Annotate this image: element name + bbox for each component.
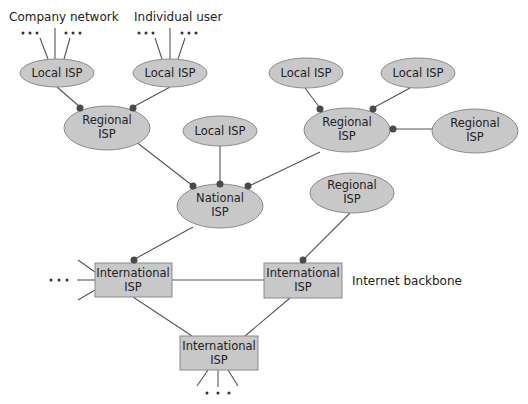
node-local-isp-5: Local ISP [183, 116, 257, 146]
node-national-isp: National ISP [177, 184, 263, 228]
node-regional-isp-1-line2: ISP [98, 127, 116, 141]
node-international-isp-3: International ISP [180, 336, 258, 370]
node-local-isp-3-label: Local ISP [280, 66, 331, 80]
edge-company-network-right [64, 38, 70, 59]
node-local-isp-5-label: Local ISP [194, 124, 245, 138]
joint-regional1-left [77, 105, 84, 112]
edge-regional2-national [249, 152, 320, 186]
node-local-isp-2: Local ISP [133, 59, 207, 87]
node-regional-isp-3: Regional ISP [432, 109, 518, 153]
node-international-isp-1-line2: ISP [124, 280, 142, 294]
edge-individual-user-right [178, 38, 185, 59]
ellipsis-company-right [65, 32, 82, 35]
edge-local1-regional1 [57, 87, 80, 107]
ellipsis-company-left [22, 32, 39, 35]
node-regional-isp-3-line1: Regional [450, 116, 500, 130]
ellipsis-international3-bottom [206, 392, 231, 395]
ellipsis-user-left [138, 32, 155, 35]
node-local-isp-2-label: Local ISP [144, 66, 195, 80]
node-regional-isp-2-line2: ISP [338, 129, 356, 143]
node-regional-isp-1: Regional ISP [64, 106, 150, 150]
joint-international2-top [300, 257, 307, 264]
node-international-isp-2-line1: International [266, 266, 339, 280]
edge-international1-fan-bottom [78, 290, 95, 300]
joint-national-right [245, 183, 252, 190]
joint-regional2-east [390, 126, 397, 133]
edge-local4-regional2 [373, 88, 410, 108]
node-local-isp-1-label: Local ISP [31, 66, 82, 80]
joint-regional1-right [130, 105, 137, 112]
edge-regional4-international2 [303, 213, 350, 260]
node-regional-isp-1-line1: Regional [82, 113, 132, 127]
joint-national-top [217, 181, 224, 188]
node-international-isp-3-line2: ISP [210, 353, 228, 367]
node-regional-isp-4-line2: ISP [343, 192, 361, 206]
label-company-network: Company network [9, 10, 119, 24]
node-local-isp-3: Local ISP [269, 58, 343, 88]
joint-international1-top [131, 257, 138, 264]
edge-international3-fan-right [228, 370, 238, 386]
joint-national-left [190, 183, 197, 190]
edge-international3-fan-left [197, 370, 208, 386]
ellipsis-international1-left [50, 279, 69, 282]
edge-regional1-national [135, 141, 193, 186]
edge-international1-fan-top [78, 260, 95, 272]
joint-regional2-right [370, 106, 377, 113]
node-regional-isp-4-line1: Regional [327, 178, 377, 192]
edge-local3-regional2 [305, 88, 320, 108]
joint-regional2-left [317, 106, 324, 113]
node-regional-isp-4: Regional ISP [310, 173, 394, 213]
edge-company-network-left [40, 38, 48, 59]
edge-local2-regional1 [133, 87, 170, 107]
edge-individual-user-left [155, 38, 162, 59]
node-national-isp-line2: ISP [211, 205, 229, 219]
node-regional-isp-3-line2: ISP [466, 130, 484, 144]
node-regional-isp-2-line1: Regional [322, 115, 372, 129]
edge-national-international1 [133, 227, 193, 260]
edge-international1-international3 [133, 297, 192, 336]
node-regional-isp-2: Regional ISP [304, 108, 390, 152]
isp-hierarchy-diagram: Company network Individual user Local IS… [0, 0, 528, 404]
label-individual-user: Individual user [134, 10, 222, 24]
node-international-isp-1: International ISP [95, 263, 172, 297]
edge-international2-international3 [245, 298, 290, 336]
node-international-isp-1-line1: International [96, 266, 169, 280]
node-local-isp-1: Local ISP [20, 59, 94, 87]
node-international-isp-3-line1: International [182, 339, 255, 353]
label-internet-backbone: Internet backbone [352, 274, 462, 288]
node-local-isp-4-label: Local ISP [392, 66, 443, 80]
node-international-isp-2-line2: ISP [294, 280, 312, 294]
node-national-isp-line1: National [196, 191, 244, 205]
ellipsis-user-right [181, 32, 198, 35]
node-international-isp-2: International ISP [264, 263, 342, 298]
node-local-isp-4: Local ISP [381, 58, 455, 88]
